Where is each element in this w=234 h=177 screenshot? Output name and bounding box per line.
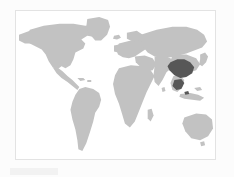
world-map-svg[interactable] xyxy=(16,11,215,159)
map-caption-bar xyxy=(10,168,58,175)
page-root xyxy=(0,0,234,177)
world-map-figure[interactable] xyxy=(15,10,216,160)
